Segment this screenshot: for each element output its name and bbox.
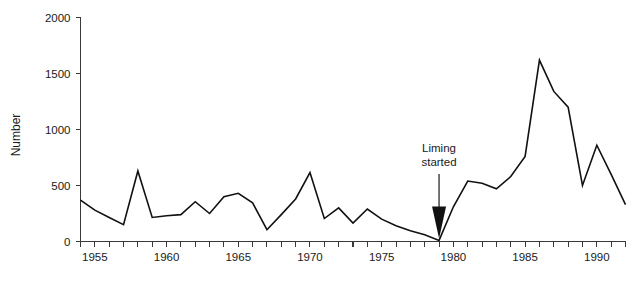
annotation-text-line-2: started: [421, 156, 456, 168]
chart-container: 0500100015002000 19551960196519701975198…: [0, 0, 637, 288]
x-axis-tick-label: 1970: [297, 251, 323, 263]
line-chart-number-vs-year: 0500100015002000 19551960196519701975198…: [0, 0, 637, 288]
annotation-text-line-1: Liming: [422, 142, 456, 154]
y-axis-title: Number: [9, 114, 23, 157]
y-axis-tick-label: 1000: [45, 124, 71, 136]
y-axis-tick-label: 2000: [45, 12, 71, 24]
x-axis-tick-label: 1965: [225, 251, 251, 263]
x-axis-tick-label: 1985: [512, 251, 538, 263]
x-axis-tick-label: 1960: [154, 251, 180, 263]
y-axis-tick-label: 1500: [45, 68, 71, 80]
y-axis-tick-label: 500: [51, 180, 70, 192]
x-axis-tick-label: 1955: [82, 251, 108, 263]
chart-background: [0, 0, 637, 288]
x-axis-tick-label: 1975: [369, 251, 395, 263]
y-axis-tick-label: 0: [64, 236, 70, 248]
x-axis-tick-label: 1980: [441, 251, 467, 263]
x-axis-tick-label: 1990: [584, 251, 610, 263]
